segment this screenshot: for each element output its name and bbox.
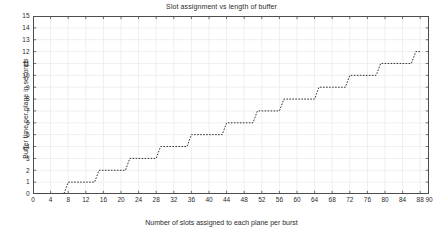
- x-tick-label: 0: [31, 196, 35, 203]
- x-tick-label: 64: [311, 196, 319, 203]
- x-tick-label: 56: [276, 196, 284, 203]
- chart-title: Slot assignment vs length of buffer: [0, 3, 443, 10]
- x-tick-label: 28: [153, 196, 161, 203]
- plot-area: [33, 16, 429, 194]
- x-tick-label: 80: [381, 196, 389, 203]
- x-tick-label: 16: [100, 196, 108, 203]
- x-tick-label: 20: [117, 196, 125, 203]
- x-tick-label: 68: [329, 196, 337, 203]
- plot-svg: [33, 16, 429, 194]
- x-tick-label: 88: [417, 196, 425, 203]
- axis-frame: [34, 17, 429, 194]
- x-tick-label: 52: [258, 196, 266, 203]
- y-tick-label: 0: [26, 190, 30, 197]
- x-tick-label: 84: [399, 196, 407, 203]
- x-tick-label: 44: [223, 196, 231, 203]
- x-axis-label: Number of slots assigned to each plane p…: [0, 219, 443, 226]
- x-tick-label: 48: [241, 196, 249, 203]
- chart-figure: Slot assignment vs length of buffer Buff…: [0, 0, 443, 237]
- tick-marks: [33, 16, 429, 194]
- x-tick-label: 72: [346, 196, 354, 203]
- x-tick-label-group: 0481216202428323640444852566064687276808…: [31, 196, 433, 203]
- x-tick-label: 60: [293, 196, 301, 203]
- y-tick-label: 15: [22, 12, 30, 19]
- x-tick-label: 90: [425, 196, 433, 203]
- x-tick-label: 40: [205, 196, 213, 203]
- x-tick-label: 32: [170, 196, 178, 203]
- grid-lines: [33, 16, 429, 194]
- x-tick-label: 8: [66, 196, 70, 203]
- x-tick-label: 24: [135, 196, 143, 203]
- y-axis-label: Buffer time per plane in seconds: [22, 29, 29, 189]
- x-tick-label: 36: [188, 196, 196, 203]
- x-tick-label: 76: [364, 196, 372, 203]
- x-tick-label: 12: [82, 196, 90, 203]
- x-tick-label: 4: [49, 196, 53, 203]
